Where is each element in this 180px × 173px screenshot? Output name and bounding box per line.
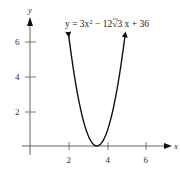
y-axis-label: y	[27, 5, 32, 15]
x-tick-label: 4	[106, 155, 111, 165]
parabola-graph: x y 2 4 6 6 4 2 y = 3x2 − 12√3 x + 36	[0, 0, 180, 173]
equation-label: y = 3x2 − 12√3 x + 36	[65, 18, 149, 29]
y-tick-label: 6	[15, 37, 20, 47]
y-tick-label: 2	[15, 107, 20, 117]
y-ticks: 6 4 2	[15, 37, 36, 117]
y-tick-label: 4	[15, 72, 20, 82]
y-axis-arrow-icon	[27, 17, 33, 26]
x-tick-label: 6	[144, 155, 149, 165]
x-tick-label: 2	[67, 155, 72, 165]
x-axis-label: x	[173, 141, 178, 151]
parabola-curve	[69, 34, 126, 146]
x-axis-arrow-icon	[164, 143, 172, 149]
x-ticks: 2 4 6	[67, 142, 149, 165]
